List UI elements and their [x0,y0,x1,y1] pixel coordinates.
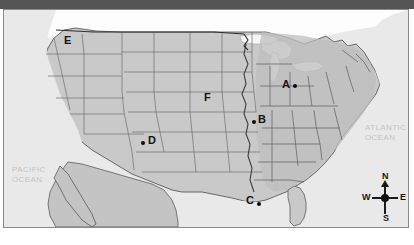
marker-label-f[interactable]: F [204,92,211,103]
marker-label-e[interactable]: E [64,35,71,46]
marker-label-c[interactable]: C [246,195,254,206]
marker-label-a[interactable]: A [282,79,290,90]
marker-dot-b[interactable] [252,120,256,124]
marker-dot-d[interactable] [141,141,145,145]
compass-rose: N S W E [362,172,408,224]
compass-label-east: E [400,193,406,202]
map-frame: PACIFIC OCEAN ATLANTIC OCEAN A B C D E F [3,9,409,228]
atlantic-ocean-label: ATLANTIC OCEAN [365,123,406,143]
marker-dot-c[interactable] [257,202,261,206]
marker-label-d[interactable]: D [148,135,156,146]
top-border-band [0,0,414,9]
compass-label-south: S [383,214,389,223]
compass-label-north: N [382,172,389,181]
marker-label-b[interactable]: B [258,114,266,125]
compass-center-dot [381,194,389,202]
marker-dot-a[interactable] [293,84,297,88]
pacific-ocean-label: PACIFIC OCEAN [12,165,46,185]
compass-north-arrow-icon [381,180,389,187]
compass-label-west: W [362,193,371,202]
map-screenshot: PACIFIC OCEAN ATLANTIC OCEAN A B C D E F… [0,0,414,245]
